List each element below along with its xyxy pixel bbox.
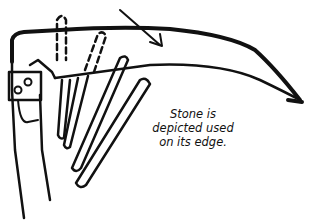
caption-line-2: depicted used (143, 121, 243, 135)
illustration: Stone is depicted used on its edge. (0, 0, 317, 220)
caption-line-1: Stone is (143, 107, 243, 121)
caption: Stone is depicted used on its edge. (143, 107, 243, 149)
caption-line-3: on its edge. (143, 135, 243, 149)
